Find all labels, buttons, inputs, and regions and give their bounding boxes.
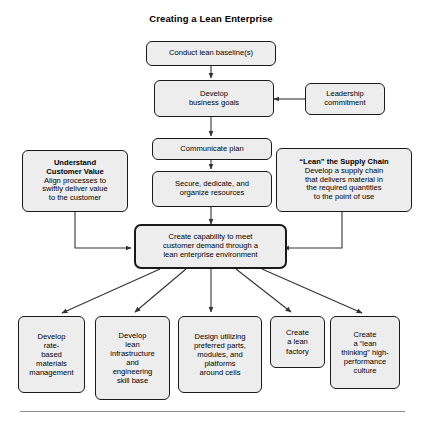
- node-body: Align processes to swiftly deliver value…: [42, 177, 107, 203]
- footer-divider: [20, 411, 405, 412]
- outcome-box-design-preferred-parts[interactable]: Design utilizing preferred parts, module…: [178, 316, 262, 393]
- outcome-box-lean-infrastructure[interactable]: Develop lean infrastructure and engineer…: [95, 316, 170, 400]
- node-communicate-plan[interactable]: Communicate plan: [152, 138, 272, 160]
- node-label: Develop rate- based materials management: [29, 332, 73, 378]
- node-leadership-commitment[interactable]: Leadership commitment: [305, 83, 385, 115]
- node-label: Create a “lean thinking” high- performan…: [341, 330, 389, 376]
- node-heading: Understand Customer Value: [46, 159, 103, 177]
- node-label: Create a lean factory: [286, 328, 309, 355]
- arrow-hub-to-outcome-1: [62, 269, 160, 313]
- node-understand-customer-value[interactable]: Understand Customer Value Align processe…: [22, 150, 128, 212]
- node-label: Communicate plan: [180, 145, 243, 154]
- node-lean-supply-chain[interactable]: “Lean” the Supply Chain Develop a supply…: [276, 148, 412, 212]
- node-label: Create capability to meet customer deman…: [163, 233, 258, 259]
- node-label: Develop lean infrastructure and engineer…: [110, 331, 154, 386]
- node-create-capability-hub[interactable]: Create capability to meet customer deman…: [134, 224, 287, 269]
- outcome-box-lean-factory[interactable]: Create a lean factory: [270, 316, 325, 368]
- node-label: Secure, dedicate, and organize resources: [175, 180, 249, 198]
- node-conduct-lean-baseline[interactable]: Conduct lean baseline(s): [146, 41, 276, 66]
- node-label: Develop business goals: [189, 90, 239, 108]
- node-label: Conduct lean baseline(s): [169, 49, 253, 58]
- node-secure-organize-resources[interactable]: Secure, dedicate, and organize resources: [152, 171, 272, 207]
- node-label: Leadership commitment: [324, 90, 365, 108]
- arrow-hub-to-outcome-5: [262, 269, 362, 313]
- diagram-canvas: Creating a Lean Enterprise Conduct lean …: [0, 0, 422, 424]
- node-label: Design utilizing preferred parts, module…: [194, 332, 246, 378]
- arrow-supply-chain-to-hub: [284, 212, 342, 248]
- node-body: Develop a supply chain that delivers mat…: [305, 167, 384, 202]
- outcome-box-lean-thinking-culture[interactable]: Create a “lean thinking” high- performan…: [330, 316, 400, 389]
- arrow-hub-to-outcome-2: [135, 269, 186, 312]
- node-develop-business-goals[interactable]: Develop business goals: [154, 80, 274, 117]
- outcome-box-rate-based-materials[interactable]: Develop rate- based materials management: [18, 316, 85, 393]
- arrow-hub-to-outcome-4: [236, 269, 291, 312]
- arrow-customer-value-to-hub: [75, 212, 131, 248]
